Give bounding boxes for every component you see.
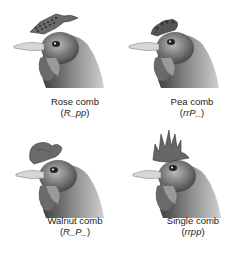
genotype-label: (rrpp) — [157, 226, 229, 237]
rooster-head-rose-comb-icon — [0, 0, 117, 100]
caption-rose-comb: Rose comb (R_pp) — [40, 96, 110, 118]
comb-name: Pea comb — [157, 96, 227, 107]
genotype-label: (R_pp) — [40, 107, 110, 118]
caption-walnut-comb: Walnut comb (R_P_) — [38, 215, 112, 237]
comb-name: Single comb — [157, 215, 229, 226]
caption-single-comb: Single comb (rrpp) — [157, 215, 229, 237]
rooster-head-pea-comb-icon — [117, 0, 234, 100]
panel-single-comb: Single comb (rrpp) — [117, 130, 234, 259]
comb-name: Rose comb — [40, 96, 110, 107]
genotype-label: (R_P_) — [38, 226, 112, 237]
caption-pea-comb: Pea comb (rrP_) — [157, 96, 227, 118]
comb-name: Walnut comb — [38, 215, 112, 226]
genotype-label: (rrP_) — [157, 107, 227, 118]
panel-pea-comb: Pea comb (rrP_) — [117, 0, 234, 130]
panel-rose-comb: Rose comb (R_pp) — [0, 0, 117, 130]
panel-walnut-comb: Walnut comb (R_P_) — [0, 130, 117, 259]
